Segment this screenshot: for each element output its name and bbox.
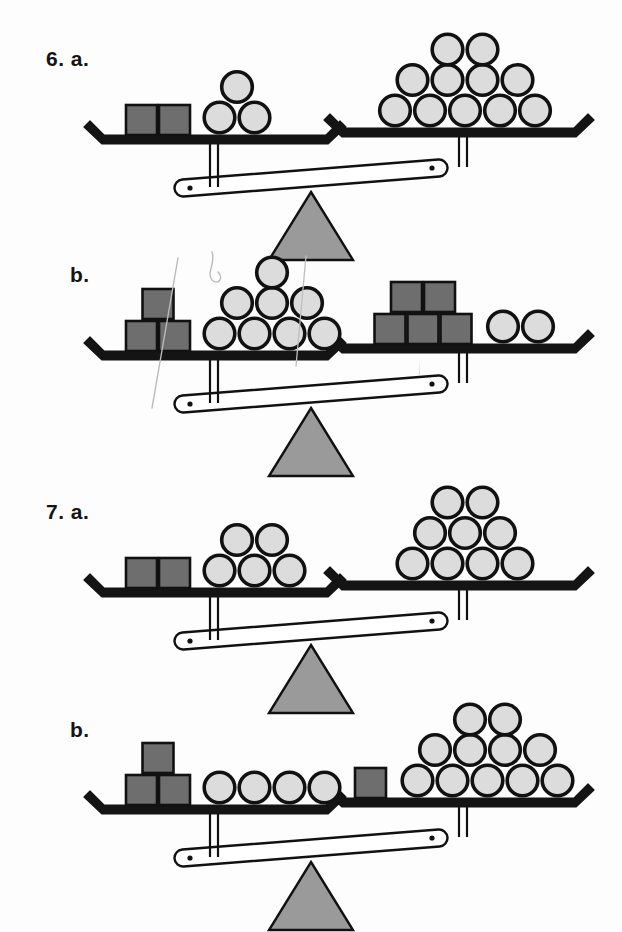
right-pan-contents	[397, 487, 533, 579]
ball	[222, 525, 253, 556]
ball	[507, 765, 538, 796]
ball	[415, 518, 446, 549]
beam-pivot-dot-left	[187, 855, 192, 860]
ball	[523, 311, 554, 342]
cube	[126, 558, 157, 588]
cube	[159, 321, 190, 351]
ball	[420, 735, 451, 766]
left-pan-contents	[126, 72, 270, 135]
ball	[432, 65, 463, 96]
ball	[239, 555, 270, 586]
ball	[488, 311, 519, 342]
hanger-right	[459, 352, 467, 383]
left-pan-contents	[126, 525, 305, 588]
beam-pivot-dot-right	[429, 165, 434, 170]
ball	[239, 102, 270, 133]
ball	[432, 548, 463, 579]
ball	[397, 548, 428, 579]
ball	[222, 288, 253, 319]
ball	[257, 525, 288, 556]
cube	[355, 768, 386, 798]
fulcrum-triangle	[269, 408, 353, 476]
scale-group	[84, 704, 594, 930]
beam-pivot-dot-left	[187, 638, 192, 643]
cube	[143, 743, 174, 773]
ball	[520, 95, 551, 126]
cube	[126, 321, 157, 351]
ball	[467, 34, 498, 65]
right-pan-contents	[380, 34, 551, 126]
left-pan-contents	[126, 257, 340, 351]
scale-group	[84, 257, 594, 476]
ball	[257, 288, 288, 319]
ball	[402, 765, 433, 796]
ball	[292, 288, 323, 319]
right-pan-contents	[375, 282, 554, 344]
worksheet-page: 6. a. b. 7. a. b.	[0, 0, 622, 932]
ball	[485, 95, 516, 126]
ball	[397, 65, 428, 96]
ball	[309, 772, 340, 803]
ball	[450, 95, 481, 126]
beam-pivot-dot-right	[429, 835, 434, 840]
ball	[502, 65, 533, 96]
balance-scale-7a	[0, 483, 622, 733]
ball	[204, 102, 235, 133]
ball	[204, 772, 235, 803]
beam-pivot-dot-right	[429, 618, 434, 623]
right-pan-contents	[355, 704, 573, 798]
balance-scale-7b	[0, 700, 622, 932]
cube	[375, 314, 406, 344]
hanger-right	[459, 806, 467, 837]
beam-pivot-dot-right	[429, 381, 434, 386]
cube	[143, 289, 174, 319]
beam-pivot-dot-left	[187, 185, 192, 190]
beam-pivot-dot-left	[187, 401, 192, 406]
ball	[490, 735, 521, 766]
ball	[432, 487, 463, 518]
ball	[415, 95, 446, 126]
ball	[239, 318, 270, 349]
ball	[490, 704, 521, 735]
ball	[502, 548, 533, 579]
cube	[408, 314, 439, 344]
ball	[309, 318, 340, 349]
fulcrum-triangle	[269, 862, 353, 930]
ball	[472, 765, 503, 796]
cube	[424, 282, 455, 312]
ball	[274, 772, 305, 803]
balance-scale-6b	[0, 246, 622, 496]
cube	[391, 282, 422, 312]
cube	[159, 558, 190, 588]
cube	[126, 775, 157, 805]
ball	[222, 72, 253, 103]
ball	[380, 95, 411, 126]
hanger-right	[459, 136, 467, 167]
scale-group	[84, 34, 594, 260]
ball	[485, 518, 516, 549]
ball	[455, 735, 486, 766]
scale-group	[84, 487, 594, 713]
ball	[467, 65, 498, 96]
ball	[204, 555, 235, 586]
ball	[455, 704, 486, 735]
cube	[159, 775, 190, 805]
ball	[525, 735, 556, 766]
cube	[126, 105, 157, 135]
hanger-right	[459, 589, 467, 620]
balance-scale-6a	[0, 30, 622, 280]
ball	[437, 765, 468, 796]
ball	[542, 765, 573, 796]
ball	[257, 257, 288, 288]
ball	[274, 318, 305, 349]
ball	[204, 318, 235, 349]
ball	[239, 772, 270, 803]
ball	[274, 555, 305, 586]
ball	[467, 548, 498, 579]
left-pan-contents	[126, 743, 340, 805]
cube	[441, 314, 472, 344]
ball	[450, 518, 481, 549]
ball	[467, 487, 498, 518]
cube	[159, 105, 190, 135]
ball	[432, 34, 463, 65]
